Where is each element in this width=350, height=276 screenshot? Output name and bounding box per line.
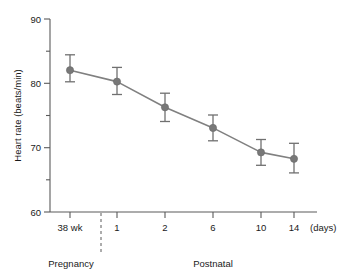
y-tick-label-80: 80 bbox=[30, 78, 41, 89]
group-label-postnatal: Postnatal bbox=[193, 258, 233, 269]
x-tick-label-6: 6 bbox=[210, 222, 215, 233]
data-point-group-2 bbox=[160, 93, 170, 121]
line-chart-plot: 90 80 70 60 Heart rate (beats/min) 38 wk… bbox=[0, 0, 350, 276]
x-tick-label-14: 14 bbox=[289, 222, 300, 233]
data-marker-5 bbox=[290, 155, 297, 162]
y-tick-label-60: 60 bbox=[30, 207, 41, 218]
x-axis-unit-label: (days) bbox=[310, 222, 336, 233]
y-tick-label-70: 70 bbox=[30, 142, 41, 153]
x-tick-label-2: 2 bbox=[162, 222, 167, 233]
data-marker-3 bbox=[209, 124, 216, 131]
data-point-group-1 bbox=[112, 67, 122, 94]
chart-figure: 90 80 70 60 Heart rate (beats/min) 38 wk… bbox=[0, 0, 350, 276]
x-tick-label-1: 1 bbox=[114, 222, 119, 233]
data-point-group-0 bbox=[65, 55, 75, 82]
data-marker-0 bbox=[66, 67, 73, 74]
data-marker-1 bbox=[113, 78, 120, 85]
data-point-group-3 bbox=[208, 115, 218, 141]
group-label-pregnancy: Pregnancy bbox=[48, 258, 94, 269]
data-point-group-5 bbox=[289, 143, 299, 173]
data-point-group-4 bbox=[256, 140, 266, 166]
y-axis-title: Heart rate (beats/min) bbox=[12, 69, 23, 161]
x-tick-label-10: 10 bbox=[256, 222, 267, 233]
data-marker-2 bbox=[161, 104, 168, 111]
data-marker-4 bbox=[257, 149, 264, 156]
x-tick-label-38wk: 38 wk bbox=[58, 222, 83, 233]
y-tick-label-90: 90 bbox=[30, 14, 41, 25]
